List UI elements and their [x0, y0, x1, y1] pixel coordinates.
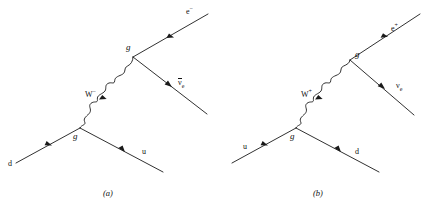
label-u-quark-b: u	[243, 143, 247, 151]
label-neutrino-b: νe	[396, 82, 402, 92]
label-positron-b: e+	[391, 22, 398, 33]
label-w-boson-charge-b: +	[309, 88, 312, 94]
caption-b: (b)	[313, 189, 323, 198]
neutrino-arrow-b	[378, 82, 385, 89]
diagram-a-lines	[16, 14, 208, 172]
caption-a: (a)	[103, 189, 113, 198]
feynman-figure: d u g g W− e− νe (a) u d g g W+ e+ νe (b…	[0, 0, 432, 208]
label-u-quark-a: u	[142, 148, 146, 156]
d-quark-arrow-a	[45, 141, 52, 146]
label-vertex-upper-a: g	[126, 43, 131, 52]
label-w-boson-b: W+	[301, 88, 312, 99]
u-quark-line-b	[232, 128, 296, 163]
label-w-boson-symbol-b: W	[301, 90, 309, 99]
label-vertex-upper-b: g	[355, 50, 360, 59]
label-positron-charge-b: +	[395, 22, 398, 28]
d-quark-line-a	[16, 128, 80, 163]
label-electron-a: e−	[186, 5, 193, 16]
feynman-diagram-svg	[0, 0, 432, 208]
antineutrino-arrow-a	[165, 81, 172, 87]
label-w-boson-a: W−	[85, 88, 96, 99]
diagram-b-lines	[232, 14, 420, 172]
label-neutrino-sub-b: e	[400, 86, 403, 92]
label-electron-charge-a: −	[190, 5, 193, 11]
w-boson-arrow-b	[315, 95, 323, 100]
u-quark-arrow-b	[261, 141, 268, 146]
label-vertex-lower-b: g	[290, 132, 295, 141]
label-w-boson-symbol-a: W	[85, 90, 93, 99]
w-boson-arrow-a	[99, 95, 107, 100]
u-quark-line-a	[80, 128, 163, 172]
label-antineutrino-sub-a: e	[182, 83, 185, 89]
d-quark-line-b	[296, 128, 379, 172]
label-w-boson-charge-a: −	[93, 88, 96, 94]
label-d-quark-b: d	[355, 148, 359, 156]
label-antineutrino-a: νe	[178, 78, 184, 89]
label-d-quark-a: d	[8, 160, 12, 168]
label-vertex-lower-a: g	[73, 132, 78, 141]
